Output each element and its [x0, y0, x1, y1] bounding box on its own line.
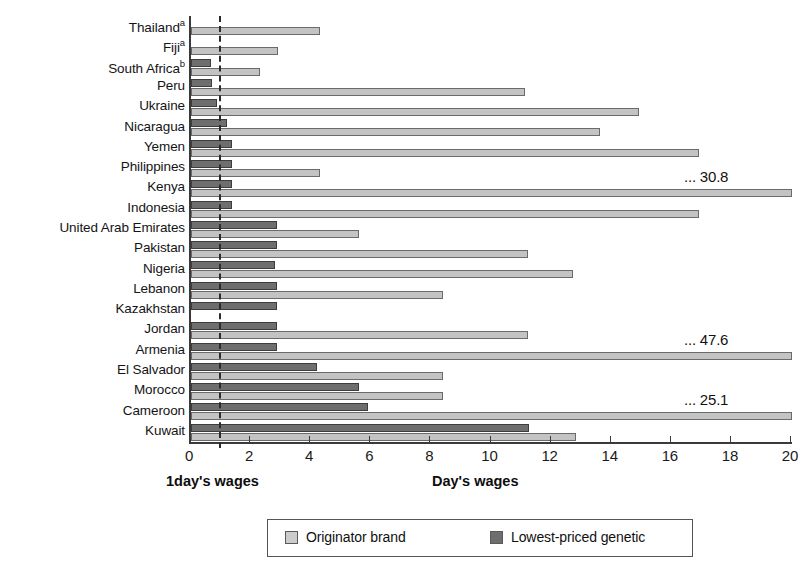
overflow-value-label-kenya: ... 30.8 — [684, 168, 728, 185]
category-label-cameroon: Cameroon — [0, 403, 185, 418]
bar-originator-brand-armenia — [191, 352, 792, 360]
bar-originator-brand-el-salvador — [191, 372, 443, 380]
x-axis-title: Day's wages — [432, 473, 518, 489]
bar-originator-brand-kenya — [191, 189, 792, 197]
bar-originator-brand-peru — [191, 88, 525, 96]
bar-lowest-priced-genetic-peru — [191, 79, 212, 87]
bar-lowest-priced-genetic-jordan — [191, 322, 277, 330]
category-label-fiji: Fijia — [0, 37, 185, 55]
bar-originator-brand-nicaragua — [191, 128, 600, 136]
x-tick-label: 6 — [349, 447, 389, 464]
bars-container: ... 30.8... 47.6... 25.1 — [191, 16, 810, 442]
x-tick-label: 0 — [169, 447, 209, 464]
bar-originator-brand-morocco — [191, 392, 443, 400]
bar-originator-brand-ukraine — [191, 108, 639, 116]
x-tick-mark — [369, 436, 370, 443]
legend: Originator brand Lowest-priced genetic — [267, 519, 693, 557]
category-label-peru: Peru — [0, 78, 185, 93]
category-label-kuwait: Kuwait — [0, 423, 185, 438]
x-tick-mark — [429, 436, 430, 443]
category-label-philippines: Philippines — [0, 159, 185, 174]
category-label-el-salvador: El Salvador — [0, 362, 185, 377]
x-tick-mark — [670, 436, 671, 443]
category-label-ukraine: Ukraine — [0, 98, 185, 113]
category-label-indonesia: Indonesia — [0, 200, 185, 215]
x-tick-mark — [730, 436, 731, 443]
bar-originator-brand-philippines — [191, 169, 320, 177]
overflow-value-label-cameroon: ... 25.1 — [684, 391, 728, 408]
footnote-marker: b — [180, 58, 185, 69]
x-tick-mark — [490, 436, 491, 443]
category-label-armenia: Armenia — [0, 342, 185, 357]
bar-lowest-priced-genetic-armenia — [191, 343, 277, 351]
bar-originator-brand-cameroon — [191, 412, 792, 420]
bar-originator-brand-pakistan — [191, 250, 528, 258]
x-tick-label: 20 — [770, 447, 810, 464]
category-label-kazakhstan: Kazakhstan — [0, 301, 185, 316]
bar-lowest-priced-genetic-cameroon — [191, 403, 368, 411]
plot-area: ThailandaFijiaSouth AfricabPeruUkraineNi… — [0, 0, 810, 562]
x-tick-label: 2 — [229, 447, 269, 464]
x-tick-mark — [610, 436, 611, 443]
category-label-nicaragua: Nicaragua — [0, 119, 185, 134]
category-label-morocco: Morocco — [0, 382, 185, 397]
category-label-thailand: Thailanda — [0, 17, 185, 35]
bar-originator-brand-united-arab-emirates — [191, 230, 359, 238]
x-tick-label: 4 — [289, 447, 329, 464]
x-tick-label: 8 — [409, 447, 449, 464]
bar-lowest-priced-genetic-ukraine — [191, 99, 217, 107]
bar-originator-brand-fiji — [191, 47, 278, 55]
bar-lowest-priced-genetic-el-salvador — [191, 363, 317, 371]
category-label-lebanon: Lebanon — [0, 281, 185, 296]
bar-lowest-priced-genetic-morocco — [191, 383, 359, 391]
x-tick-label: 14 — [590, 447, 630, 464]
x-tick-mark — [309, 436, 310, 443]
bar-lowest-priced-genetic-kuwait — [191, 424, 529, 432]
legend-label: Originator brand — [306, 529, 406, 545]
legend-swatch-icon — [490, 531, 503, 544]
x-tick-label: 18 — [710, 447, 750, 464]
y-axis-line — [189, 16, 191, 442]
category-label-nigeria: Nigeria — [0, 261, 185, 276]
legend-item-lowest-priced-genetic: Lowest-priced genetic — [490, 529, 645, 545]
category-label-yemen: Yemen — [0, 139, 185, 154]
bar-originator-brand-jordan — [191, 331, 528, 339]
x-tick-label: 16 — [650, 447, 690, 464]
x-tick-mark — [189, 436, 190, 443]
bar-lowest-priced-genetic-pakistan — [191, 241, 277, 249]
bar-originator-brand-lebanon — [191, 291, 443, 299]
bar-lowest-priced-genetic-philippines — [191, 160, 232, 168]
category-label-jordan: Jordan — [0, 321, 185, 336]
footnote-marker: a — [180, 17, 185, 28]
bar-originator-brand-indonesia — [191, 210, 699, 218]
bar-originator-brand-nigeria — [191, 270, 573, 278]
bar-lowest-priced-genetic-lebanon — [191, 282, 277, 290]
x-tick-mark — [249, 436, 250, 443]
bar-lowest-priced-genetic-south-africa — [191, 59, 211, 67]
category-label-pakistan: Pakistan — [0, 240, 185, 255]
bar-originator-brand-thailand — [191, 27, 320, 35]
bar-lowest-priced-genetic-nigeria — [191, 261, 275, 269]
x-tick-label: 10 — [470, 447, 510, 464]
x-axis-line — [189, 442, 792, 444]
bar-lowest-priced-genetic-kenya — [191, 180, 232, 188]
category-label-united-arab-emirates: United Arab Emirates — [0, 220, 185, 235]
category-label-south-africa: South Africab — [0, 58, 185, 76]
bar-chart: ThailandaFijiaSouth AfricabPeruUkraineNi… — [0, 0, 810, 562]
legend-swatch-icon — [285, 531, 298, 544]
bar-lowest-priced-genetic-united-arab-emirates — [191, 221, 277, 229]
bar-lowest-priced-genetic-nicaragua — [191, 119, 227, 127]
legend-label: Lowest-priced genetic — [511, 529, 645, 545]
x-tick-label: 12 — [530, 447, 570, 464]
bar-lowest-priced-genetic-yemen — [191, 140, 232, 148]
x-tick-mark — [550, 436, 551, 443]
bar-originator-brand-south-africa — [191, 68, 260, 76]
category-label-kenya: Kenya — [0, 179, 185, 194]
category-axis-labels: ThailandaFijiaSouth AfricabPeruUkraineNi… — [0, 16, 185, 442]
bar-lowest-priced-genetic-kazakhstan — [191, 302, 277, 310]
bar-lowest-priced-genetic-indonesia — [191, 201, 232, 209]
one-day-wage-reference-line — [219, 16, 221, 448]
bar-originator-brand-yemen — [191, 149, 699, 157]
reference-line-caption: 1day's wages — [166, 473, 259, 489]
overflow-value-label-armenia: ... 47.6 — [684, 331, 728, 348]
